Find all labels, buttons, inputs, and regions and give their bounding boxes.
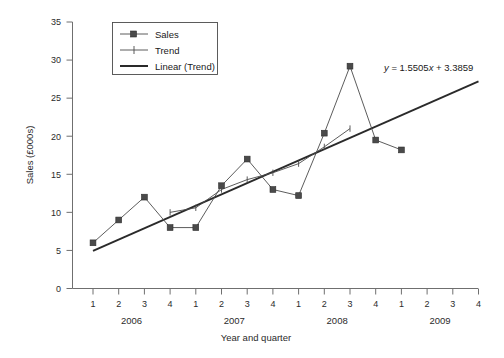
x-tick-label: 4 (476, 299, 481, 309)
x-tick-label: 1 (90, 299, 95, 309)
x-tick-label: 4 (168, 299, 173, 309)
sales-data-point (142, 194, 148, 200)
sales-data-point (116, 217, 122, 223)
y-axis-ticks (67, 22, 73, 289)
x-axis-year-label: 2009 (429, 315, 450, 326)
sales-data-point (321, 130, 327, 136)
x-tick-label: 3 (245, 299, 250, 309)
y-tick-label: 5 (56, 246, 61, 256)
sales-data-point (90, 240, 96, 246)
trend-series-line (170, 129, 350, 213)
regression-equation-label: y = 1.5505x + 3.3859 (383, 62, 473, 73)
x-axis-year-label: 2007 (224, 315, 245, 326)
sales-series-markers (90, 63, 404, 245)
y-tick-label: 20 (51, 132, 61, 142)
legend-label-sales: Sales (155, 29, 179, 40)
sales-data-point (270, 187, 276, 193)
sales-series-line (93, 66, 401, 243)
x-axis-tick-labels: 1234123412341234 (90, 299, 481, 309)
x-tick-label: 3 (142, 299, 147, 309)
sales-data-point (167, 225, 173, 231)
x-tick-label: 2 (322, 299, 327, 309)
chart-canvas: 05101520253035 1234123412341234 20062007… (0, 0, 504, 358)
y-axis-tick-labels: 05101520253035 (51, 17, 61, 294)
x-tick-label: 4 (373, 299, 378, 309)
sales-data-point (347, 63, 353, 69)
x-tick-label: 1 (296, 299, 301, 309)
x-tick-label: 2 (219, 299, 224, 309)
x-axis-year-label: 2008 (327, 315, 348, 326)
x-axis-title: Year and quarter (221, 332, 291, 343)
y-tick-label: 35 (51, 17, 61, 27)
x-axis-year-labels: 2006200720082009 (121, 315, 451, 326)
x-tick-label: 2 (116, 299, 121, 309)
x-axis-ticks (93, 289, 479, 295)
y-tick-label: 15 (51, 170, 61, 180)
x-tick-label: 1 (193, 299, 198, 309)
sales-data-point (296, 193, 302, 199)
legend-label-trend: Trend (155, 45, 179, 56)
x-tick-label: 3 (347, 299, 352, 309)
legend-label-linear-trend: Linear (Trend) (155, 61, 215, 72)
legend-swatch-sales-marker (131, 31, 137, 37)
sales-data-point (193, 225, 199, 231)
linear-trend-line (93, 81, 479, 250)
y-tick-label: 0 (56, 284, 61, 294)
y-tick-label: 10 (51, 208, 61, 218)
sales-data-point (244, 156, 250, 162)
x-tick-label: 2 (425, 299, 430, 309)
y-tick-label: 25 (51, 93, 61, 103)
chart-legend: Sales Trend Linear (Trend) (113, 23, 218, 75)
x-tick-label: 3 (450, 299, 455, 309)
x-tick-label: 4 (270, 299, 275, 309)
y-tick-label: 30 (51, 55, 61, 65)
sales-data-point (373, 137, 379, 143)
sales-trend-chart: 05101520253035 1234123412341234 20062007… (0, 0, 504, 358)
x-tick-label: 1 (399, 299, 404, 309)
sales-data-point (399, 147, 405, 153)
y-axis-title: Sales (£000s) (24, 126, 35, 185)
trend-series-markers (170, 125, 350, 215)
x-axis-year-label: 2006 (121, 315, 142, 326)
